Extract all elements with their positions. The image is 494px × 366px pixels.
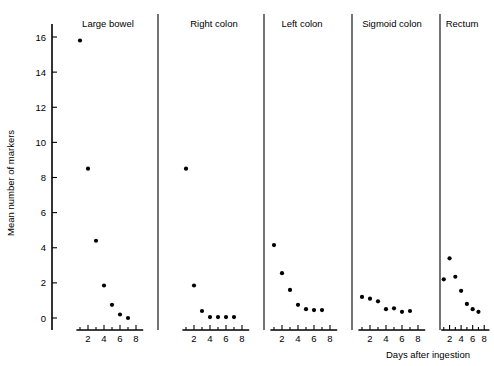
panel-left-colon: Left colon2468 [270,14,352,344]
y-tick-label: 12 [35,102,46,113]
panel-right-colon: Right colon2468 [182,14,264,344]
data-point [459,289,463,293]
data-point [288,288,292,292]
panel-title: Sigmoid colon [362,18,422,29]
data-point [102,283,106,287]
data-point [465,302,469,306]
y-tick-label: 8 [41,172,46,183]
x-tick-label: 4 [295,333,300,344]
x-tick-label: 8 [133,333,138,344]
x-tick-label: 4 [383,333,388,344]
data-point [442,277,446,281]
data-point [471,307,475,311]
figure-container: 0246810121416Mean number of markersDays … [0,0,494,366]
data-point [110,303,114,307]
x-tick-label: 6 [311,333,316,344]
data-point [126,316,130,320]
scatter-chart: 0246810121416Mean number of markersDays … [0,0,494,366]
x-tick-label: 8 [415,333,420,344]
x-tick-label: 4 [207,333,212,344]
data-point [192,283,196,287]
data-point [232,315,236,319]
data-point [86,167,90,171]
y-tick-label: 2 [41,277,46,288]
data-point [476,310,480,314]
data-point [296,303,300,307]
y-tick-label: 0 [41,313,46,324]
y-tick-label: 6 [41,207,46,218]
panel-title: Right colon [190,18,238,29]
x-tick-label: 6 [223,333,228,344]
data-point [224,315,228,319]
data-point [304,307,308,311]
panel-rectum: Rectum2468 [441,18,489,344]
x-tick-label: 8 [482,333,487,344]
x-tick-label: 4 [458,333,463,344]
data-point [118,312,122,316]
data-point [360,295,364,299]
data-point [392,306,396,310]
x-tick-label: 2 [447,333,452,344]
x-tick-label: 2 [191,333,196,344]
data-point [200,309,204,313]
data-point [94,239,98,243]
x-tick-label: 8 [327,333,332,344]
data-point [376,299,380,303]
data-point [400,310,404,314]
x-tick-label: 6 [470,333,475,344]
y-tick-label: 4 [41,242,46,253]
panel-title: Rectum [446,18,479,29]
y-axis-label: Mean number of markers [5,130,16,236]
x-tick-label: 8 [239,333,244,344]
data-point [280,271,284,275]
data-point [208,315,212,319]
x-tick-label: 2 [367,333,372,344]
x-tick-label: 2 [85,333,90,344]
data-point [272,243,276,247]
panel-sigmoid-colon: Sigmoid colon2468 [358,14,440,344]
data-point [184,167,188,171]
data-point [320,308,324,312]
panel-title: Left colon [281,18,322,29]
y-tick-label: 16 [35,32,46,43]
x-tick-label: 6 [117,333,122,344]
x-tick-label: 4 [101,333,106,344]
data-point [216,315,220,319]
x-tick-label: 2 [279,333,284,344]
data-point [408,309,412,313]
y-tick-label: 10 [35,137,46,148]
data-point [312,308,316,312]
panel-title: Large bowel [82,18,134,29]
data-point [368,297,372,301]
data-point [447,256,451,260]
panel-large-bowel: Large bowel2468 [76,14,158,344]
data-point [453,275,457,279]
x-axis-label: Days after ingestion [386,349,470,360]
y-tick-label: 14 [35,67,46,78]
data-point [384,307,388,311]
data-point [78,38,82,42]
x-tick-label: 6 [399,333,404,344]
